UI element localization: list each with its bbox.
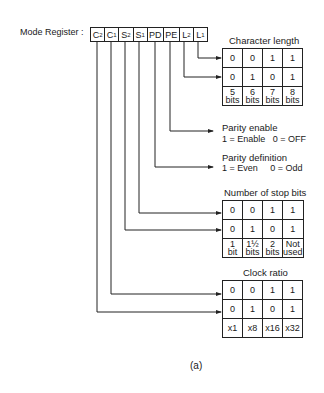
stop-bits-title: Number of stop bits [224, 187, 306, 198]
mode-register: C2 C1 S2 S1 PD PE L2 L1 [90, 27, 208, 42]
character-length-title: Character length [229, 35, 299, 46]
parity-definition-title: Parity definition [222, 152, 287, 163]
stop-bits-table: 0 0 1 1 0 1 0 1 1bit 1½bits 2bits Notuse… [222, 200, 304, 258]
bit-s2: S2 [118, 28, 132, 41]
bit-c2: C2 [91, 28, 104, 41]
parity-enable-title: Parity enable [222, 122, 277, 133]
bit-pe: PE [163, 28, 179, 41]
character-length-table: 0 0 1 1 0 1 0 1 5bits 6bits 7bits 8bits [222, 48, 303, 106]
bit-pd: PD [147, 28, 163, 41]
parity-enable-desc: 1 = Enable 0 = OFF [222, 134, 306, 144]
bit-c1: C1 [104, 28, 118, 41]
bit-l1: L1 [193, 28, 207, 41]
mode-register-label: Mode Register : [20, 27, 84, 37]
clock-ratio-title: Clock ratio [243, 267, 288, 278]
bit-l2: L2 [179, 28, 193, 41]
parity-definition-desc: 1 = Even 0 = Odd [222, 163, 303, 173]
figure-caption: (a) [190, 360, 202, 371]
bit-s1: S1 [133, 28, 147, 41]
clock-ratio-table: 0 0 1 1 0 1 0 1 x1 x8 x16 x32 [222, 280, 303, 338]
